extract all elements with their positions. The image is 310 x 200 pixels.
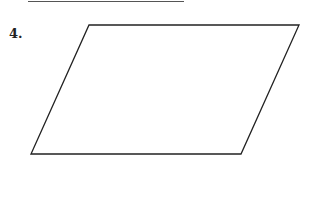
parallelogram-shape [31, 25, 299, 154]
parallelogram-figure [0, 0, 310, 200]
